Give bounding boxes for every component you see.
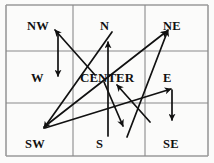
- cell-label-ne: NE: [163, 20, 181, 33]
- cell-label-center: CENTER: [80, 71, 134, 84]
- cell-label-e: E: [163, 72, 172, 85]
- cell-label-se: SE: [163, 138, 179, 151]
- cell-label-w: W: [31, 72, 44, 85]
- cell-label-sw: SW: [25, 138, 45, 151]
- cell-label-n: N: [100, 20, 109, 33]
- cell-label-s: S: [96, 138, 103, 151]
- compass-grid-figure: NW N NE W CENTER E SW S SE: [0, 0, 214, 163]
- cell-label-nw: NW: [27, 20, 49, 33]
- arrow-center-to-nw: [55, 30, 95, 75]
